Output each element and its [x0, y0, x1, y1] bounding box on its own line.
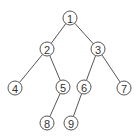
- node-label: 4: [12, 83, 18, 95]
- tree-node-6: 6: [77, 80, 91, 94]
- binary-tree-diagram: 123456789: [0, 0, 140, 140]
- node-label: 6: [81, 82, 87, 94]
- node-label: 1: [67, 13, 73, 25]
- tree-node-2: 2: [40, 42, 54, 56]
- node-label: 8: [44, 118, 50, 130]
- edge-2-4: [19, 54, 42, 82]
- node-label: 7: [121, 83, 127, 95]
- tree-node-5: 5: [56, 80, 70, 94]
- edge-6-9: [73, 94, 81, 117]
- tree-node-7: 7: [117, 81, 131, 95]
- edges-group: [19, 23, 120, 116]
- node-label: 5: [60, 82, 66, 94]
- edge-1-2: [51, 24, 66, 44]
- node-label: 9: [68, 118, 74, 130]
- edge-2-5: [50, 55, 61, 80]
- tree-node-1: 1: [63, 11, 77, 25]
- edge-5-8: [50, 93, 60, 116]
- tree-node-9: 9: [64, 116, 78, 130]
- tree-node-8: 8: [40, 116, 54, 130]
- tree-node-4: 4: [8, 81, 22, 95]
- edge-1-3: [75, 23, 94, 44]
- node-label: 3: [95, 44, 101, 56]
- node-label: 2: [44, 44, 50, 56]
- edge-3-7: [102, 55, 120, 82]
- edge-3-6: [86, 56, 95, 81]
- tree-node-3: 3: [91, 42, 105, 56]
